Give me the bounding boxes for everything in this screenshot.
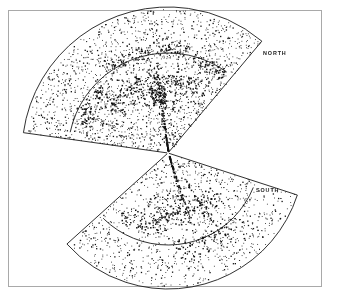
north-wedge-label: NORTH [263,50,287,56]
wedge-scatter-canvas [0,0,339,298]
south-wedge-label: SOUTH [256,187,279,193]
figure-root: NORTH SOUTH [0,0,339,298]
